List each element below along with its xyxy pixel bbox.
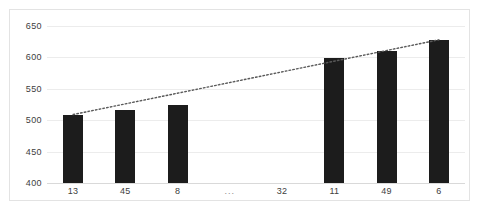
y-axis-tick-labels: 400450500550600650 xyxy=(9,0,42,215)
x-axis-tick-label: 13 xyxy=(47,186,99,197)
plot-area xyxy=(47,26,465,183)
x-axis-tick-label: 45 xyxy=(99,186,151,197)
y-axis-tick-label: 500 xyxy=(26,116,42,125)
x-axis-tick-label: 49 xyxy=(361,186,413,197)
x-axis-tick-labels: 13458...3211496 xyxy=(47,186,465,202)
chart-figure: 400450500550600650 13458...3211496 xyxy=(0,0,491,215)
y-axis-tick-label: 600 xyxy=(26,53,42,62)
y-axis-tick-label: 450 xyxy=(26,148,42,157)
x-axis-tick-label: 11 xyxy=(308,186,360,197)
y-axis-tick-label: 400 xyxy=(26,179,42,188)
x-axis-tick-label: 6 xyxy=(413,186,465,197)
x-axis-baseline xyxy=(47,183,465,184)
x-axis-tick-label: ... xyxy=(204,186,256,197)
y-axis-tick-label: 550 xyxy=(26,85,42,94)
trendline xyxy=(73,40,439,115)
trendline-series xyxy=(47,26,465,183)
x-axis-tick-label: 8 xyxy=(152,186,204,197)
y-axis-tick-label: 650 xyxy=(26,22,42,31)
x-axis-tick-label: 32 xyxy=(256,186,308,197)
